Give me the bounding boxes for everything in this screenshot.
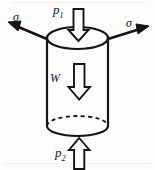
pressure-bottom-label-subscript: 2 [62, 154, 66, 163]
pressure-top-label: p1 [53, 3, 64, 20]
pressure-top-label-subscript: 1 [60, 11, 64, 20]
pressure-bottom-label: p2 [55, 146, 66, 163]
weight-arrow-outline [69, 64, 91, 100]
weight-block-arrow [69, 64, 91, 100]
cylinder-bottom-back-arc-dashed [47, 116, 108, 126]
sigma-right-label: σ [126, 17, 132, 29]
sigma-right-arrow-head [136, 24, 149, 34]
cylinder-bottom-front-arc [47, 126, 108, 136]
sigma-left-label: σ [13, 11, 19, 23]
pressure-bottom-block-arrow [69, 138, 90, 169]
sigma-right-arrow-shaft [108, 29, 140, 39]
weight-label: W [50, 72, 60, 84]
figure-container: σ σ p1 p2 W [0, 0, 155, 170]
pressure-bottom-arrow-outline [69, 138, 90, 169]
sigma-left-arrow-shaft [16, 26, 47, 39]
